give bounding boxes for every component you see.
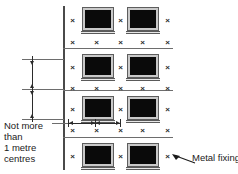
metal-fixings-callout: Metal fixings bbox=[0, 0, 238, 174]
metal-fixings-label: Metal fixings bbox=[192, 152, 238, 163]
wall-fixing-diagram: × × × × × × × × × × × × × × × × × × × × … bbox=[0, 0, 238, 174]
